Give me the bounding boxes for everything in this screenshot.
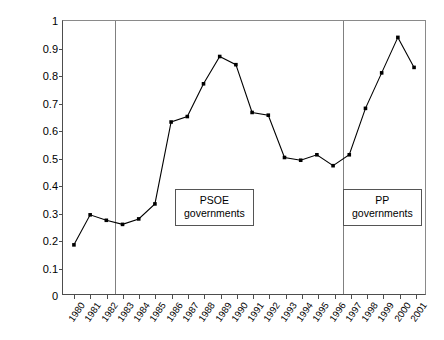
x-tick-mark bbox=[400, 294, 401, 299]
x-tick-mark bbox=[188, 294, 189, 299]
annotation-pp: PP governments bbox=[343, 189, 422, 226]
x-tick-label: 1989 bbox=[212, 300, 233, 324]
y-tick-label: 0.9 bbox=[43, 43, 58, 55]
data-point-marker bbox=[121, 223, 125, 227]
annotation-psoe: PSOE governments bbox=[175, 189, 254, 226]
data-point-marker bbox=[283, 156, 287, 160]
x-tick-label: 1995 bbox=[310, 300, 331, 324]
data-point-marker bbox=[105, 219, 109, 223]
data-point-marker bbox=[72, 243, 76, 247]
y-tick-label: 0 bbox=[52, 290, 58, 302]
data-point-marker bbox=[412, 66, 416, 70]
x-tick-mark bbox=[269, 294, 270, 299]
y-tick-label: 1 bbox=[52, 15, 58, 27]
y-tick-label: 0.2 bbox=[43, 235, 58, 247]
y-tick-label: 0.4 bbox=[43, 180, 58, 192]
x-tick-label: 2001 bbox=[408, 300, 429, 324]
x-tick-mark bbox=[107, 294, 108, 299]
y-tick-label: 0.6 bbox=[43, 125, 58, 137]
y-tick-label: 0.7 bbox=[43, 98, 58, 110]
x-tick-label: 1994 bbox=[294, 300, 315, 324]
data-point-marker bbox=[186, 115, 190, 119]
data-point-marker bbox=[218, 55, 222, 59]
y-tick-label: 0.1 bbox=[43, 263, 58, 275]
y-tick-label: 0.3 bbox=[43, 208, 58, 220]
x-tick-label: 1996 bbox=[326, 300, 347, 324]
annotation-pp-line2: governments bbox=[352, 207, 413, 220]
x-tick-label: 2000 bbox=[392, 300, 413, 324]
x-tick-label: 1997 bbox=[343, 300, 364, 324]
annotation-psoe-line1: PSOE bbox=[184, 194, 245, 207]
data-point-marker bbox=[396, 36, 400, 40]
x-tick-mark bbox=[367, 294, 368, 299]
x-tick-label: 1991 bbox=[245, 300, 266, 324]
x-tick-mark bbox=[383, 294, 384, 299]
data-point-marker bbox=[137, 217, 141, 221]
x-tick-label: 1992 bbox=[261, 300, 282, 324]
data-point-marker bbox=[234, 63, 238, 67]
x-tick-mark bbox=[253, 294, 254, 299]
data-point-marker bbox=[250, 111, 254, 115]
y-tick-label: 0.5 bbox=[43, 153, 58, 165]
x-tick-label: 1986 bbox=[164, 300, 185, 324]
data-point-marker bbox=[331, 164, 335, 168]
x-tick-mark bbox=[416, 294, 417, 299]
data-point-marker bbox=[169, 120, 173, 124]
x-tick-mark bbox=[74, 294, 75, 299]
x-tick-label: 1985 bbox=[147, 300, 168, 324]
x-tick-mark bbox=[302, 294, 303, 299]
data-point-marker bbox=[380, 71, 384, 75]
x-tick-mark bbox=[318, 294, 319, 299]
data-point-marker bbox=[364, 107, 368, 111]
x-tick-label: 1990 bbox=[229, 300, 250, 324]
x-tick-mark bbox=[335, 294, 336, 299]
x-tick-mark bbox=[204, 294, 205, 299]
chart-figure: ALMP as % of GDP 00.10.20.30.40.50.60.70… bbox=[0, 0, 444, 340]
x-tick-label: 1999 bbox=[375, 300, 396, 324]
data-point-marker bbox=[202, 82, 206, 86]
plot-area: 00.10.20.30.40.50.60.70.80.91 1980198119… bbox=[62, 20, 426, 295]
data-point-marker bbox=[153, 202, 157, 206]
x-tick-mark bbox=[155, 294, 156, 299]
data-point-marker bbox=[315, 153, 319, 157]
x-tick-label: 1983 bbox=[115, 300, 136, 324]
data-point-marker bbox=[347, 153, 351, 157]
x-tick-label: 1987 bbox=[180, 300, 201, 324]
x-tick-label: 1993 bbox=[278, 300, 299, 324]
x-tick-label: 1982 bbox=[98, 300, 119, 324]
x-tick-mark bbox=[123, 294, 124, 299]
x-tick-mark bbox=[237, 294, 238, 299]
x-tick-mark bbox=[221, 294, 222, 299]
annotation-pp-line1: PP bbox=[352, 194, 413, 207]
x-tick-label: 1998 bbox=[359, 300, 380, 324]
x-tick-label: 1980 bbox=[66, 300, 87, 324]
data-series-line bbox=[63, 21, 425, 294]
x-tick-mark bbox=[172, 294, 173, 299]
x-tick-mark bbox=[286, 294, 287, 299]
data-point-marker bbox=[299, 158, 303, 162]
x-tick-label: 1984 bbox=[131, 300, 152, 324]
annotation-psoe-line2: governments bbox=[184, 207, 245, 220]
data-point-marker bbox=[267, 113, 271, 117]
x-tick-mark bbox=[351, 294, 352, 299]
data-point-marker bbox=[88, 213, 92, 217]
y-tick-label: 0.8 bbox=[43, 70, 58, 82]
x-tick-mark bbox=[139, 294, 140, 299]
x-tick-mark bbox=[90, 294, 91, 299]
x-tick-label: 1981 bbox=[82, 300, 103, 324]
x-tick-label: 1988 bbox=[196, 300, 217, 324]
